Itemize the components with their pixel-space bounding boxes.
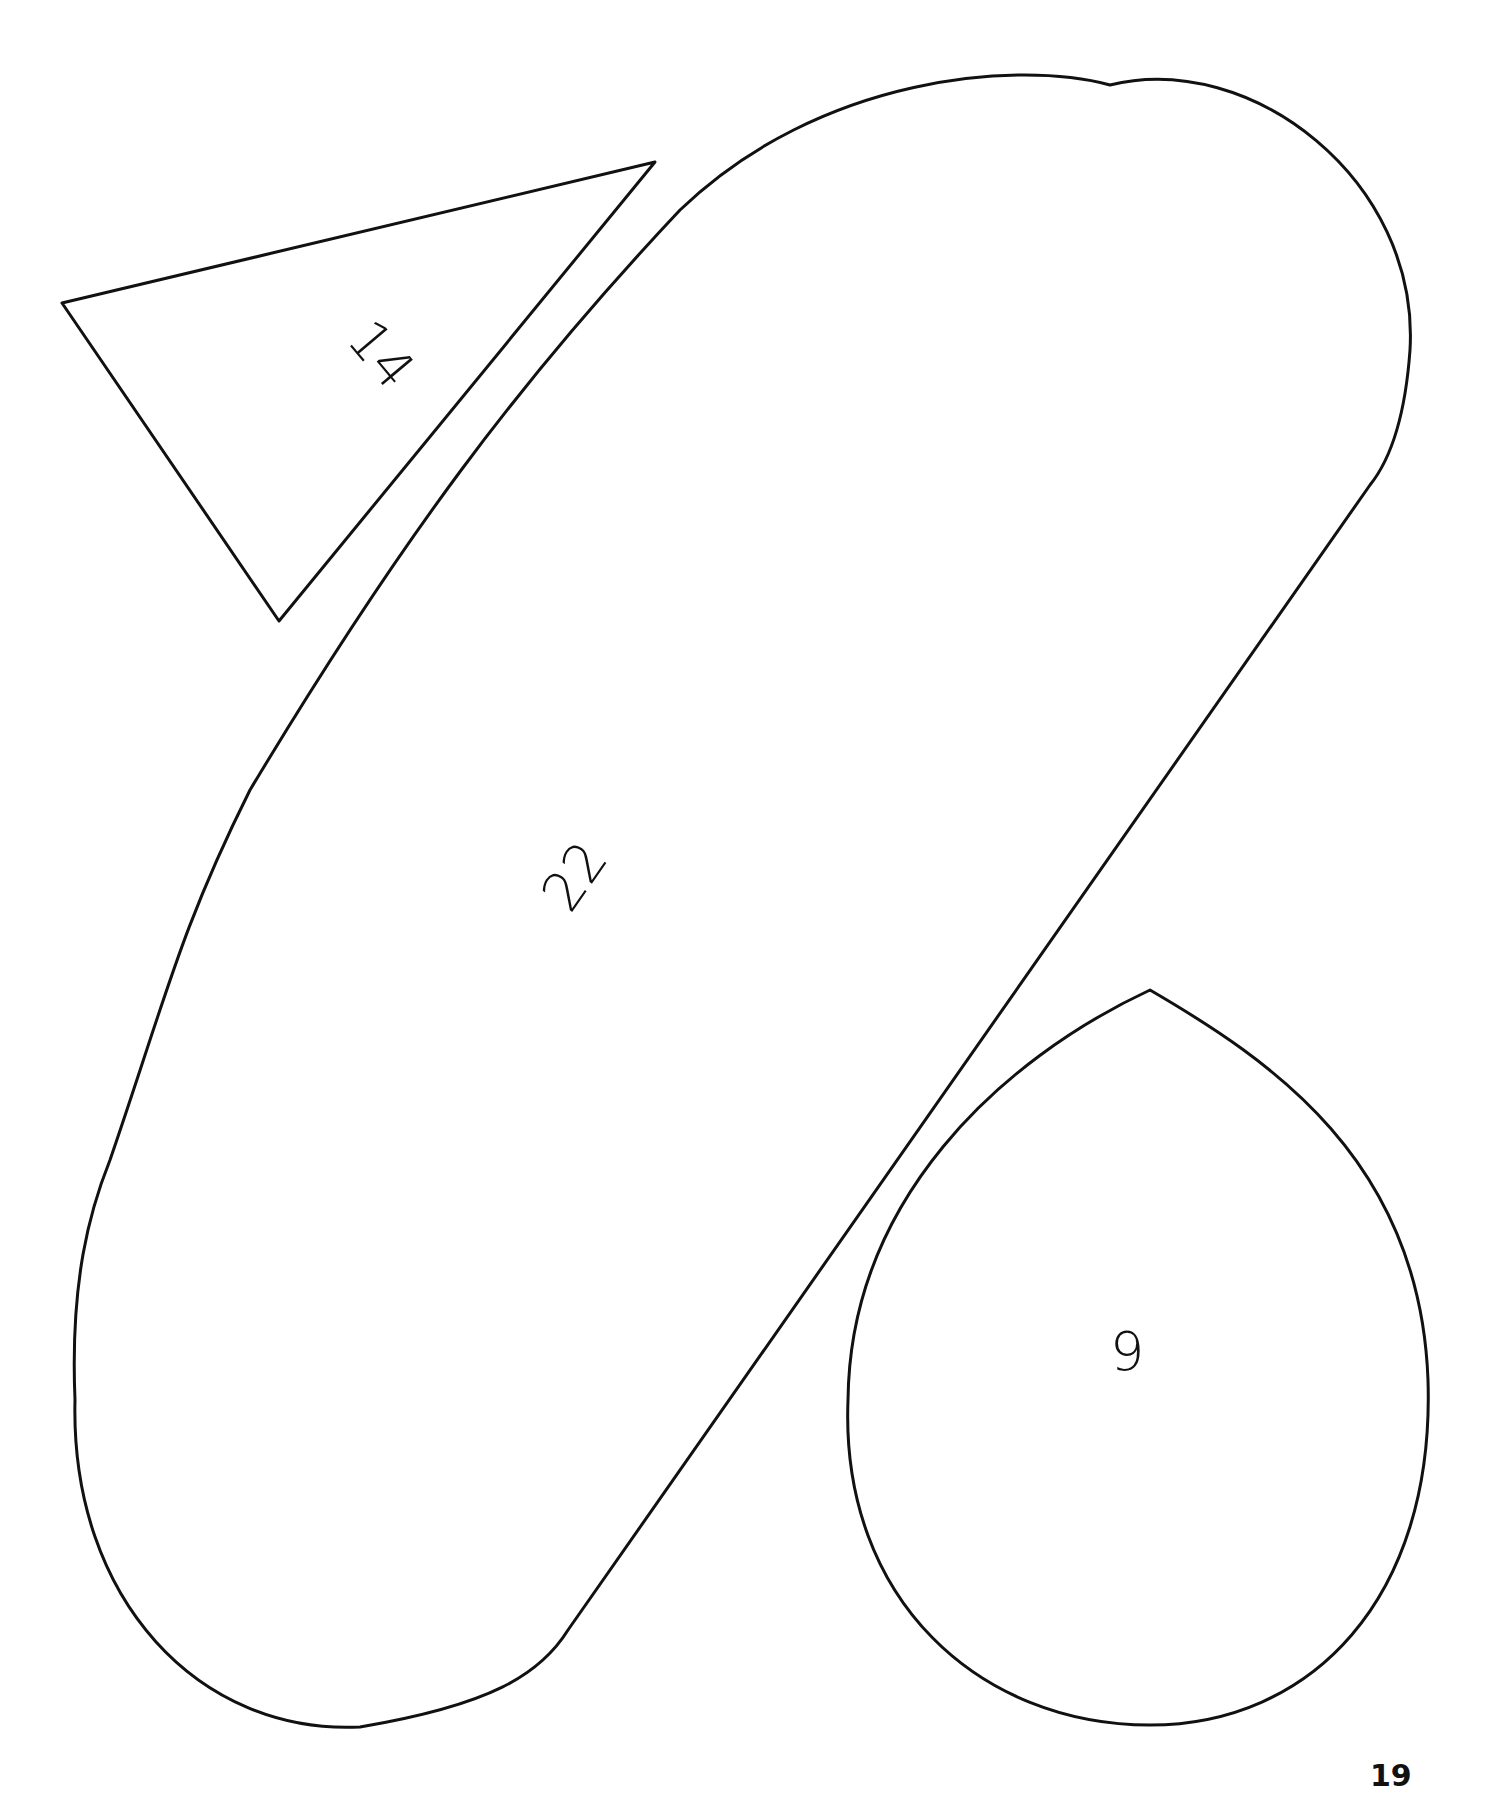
- pattern-sheet: 14 22 9: [0, 0, 1491, 1808]
- teardrop-label: 9: [1110, 1320, 1144, 1383]
- page-number: 19: [1370, 1758, 1412, 1793]
